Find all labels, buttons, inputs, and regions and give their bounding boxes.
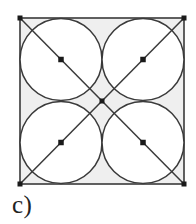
marker-center-bottom-left — [58, 140, 64, 146]
marker-corner-bottom-left — [18, 182, 23, 187]
marker-corner-top-left — [18, 16, 23, 21]
marker-square-center — [100, 99, 105, 104]
figure-caption: c) — [12, 190, 32, 220]
marker-corner-top-right — [182, 16, 187, 21]
marker-center-top-left — [58, 57, 64, 63]
marker-center-bottom-right — [140, 140, 146, 146]
figure-container: c) — [0, 0, 196, 224]
marker-center-top-right — [140, 57, 146, 63]
marker-corner-bottom-right — [182, 182, 187, 187]
